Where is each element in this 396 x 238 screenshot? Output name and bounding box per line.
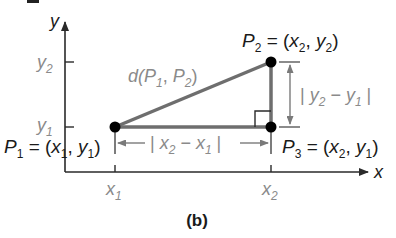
point-p2 xyxy=(266,57,277,68)
x-axis-label: x xyxy=(373,162,384,182)
horizontal-measure-label: | x2 − x1 | xyxy=(150,133,221,157)
vertical-measure-label: | y2 − y1 | xyxy=(300,85,371,109)
crop-artifact xyxy=(27,0,39,3)
y2-tick-label: y2 xyxy=(35,52,53,76)
figure-caption: (b) xyxy=(186,211,208,230)
x1-tick-label: x1 xyxy=(105,179,122,203)
p2-label: P2 = (x2, y2) xyxy=(242,30,339,55)
point-p1 xyxy=(110,122,121,133)
p1-label: P1 = (x1, y1) xyxy=(4,136,101,161)
distance-label: d(P1, P2) xyxy=(128,66,197,90)
x2-tick-label: x2 xyxy=(261,179,278,203)
point-p3 xyxy=(266,122,277,133)
p3-label: P3 = (x2, y1) xyxy=(282,136,379,161)
distance-diagram: y x y2 y1 x1 x2 | y2 − y1 | | x2 − x1 | … xyxy=(0,0,396,238)
y-axis-label: y xyxy=(48,11,60,31)
